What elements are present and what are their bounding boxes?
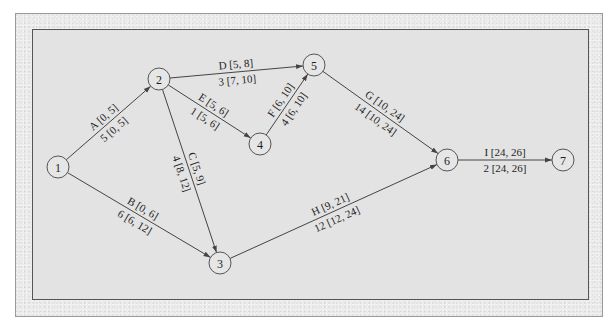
edge-arrow [66, 86, 150, 160]
edge-arrow [323, 71, 438, 153]
edge-H: H [9, 21]12 [12, 24] [230, 165, 437, 259]
edge-G: G [10, 24]14 [10, 24] [323, 71, 438, 153]
node-2: 2 [148, 68, 170, 90]
node-4: 4 [249, 133, 271, 155]
node-1: 1 [47, 156, 69, 178]
node-label: 1 [55, 161, 61, 175]
node-6: 6 [436, 149, 458, 171]
edge-arrow [230, 165, 437, 259]
node-label: 4 [257, 138, 263, 152]
edge-E: E [5, 6]1 [5, 6] [168, 85, 251, 138]
node-7: 7 [552, 149, 574, 171]
node-label: 5 [311, 59, 317, 73]
node-5: 5 [303, 54, 325, 76]
edge-F: F [6, 10]4 [6, 10] [265, 74, 309, 135]
edge-A: A [0, 5]5 [0, 5] [66, 86, 150, 160]
edges-layer: A [0, 5]5 [0, 5]B [0, 6]6 [6, 12]C [5, 9… [66, 57, 552, 259]
edge-I: I [24, 26]2 [24, 26] [458, 146, 552, 174]
node-label: 7 [560, 154, 566, 168]
edge-arrow [168, 85, 251, 138]
edge-D: D [5, 8]3 [7, 10] [170, 57, 303, 88]
network-diagram: A [0, 5]5 [0, 5]B [0, 6]6 [6, 12]C [5, 9… [0, 0, 616, 331]
edge-label-bottom: 3 [7, 10] [218, 72, 257, 87]
edge-label-top: I [24, 26] [484, 146, 525, 158]
edge-label-bottom: 2 [24, 26] [483, 162, 526, 174]
node-label: 2 [156, 73, 162, 87]
node-label: 3 [217, 257, 223, 271]
node-3: 3 [209, 252, 231, 274]
edge-label-top: D [5, 8] [218, 57, 253, 72]
node-label: 6 [444, 154, 450, 168]
